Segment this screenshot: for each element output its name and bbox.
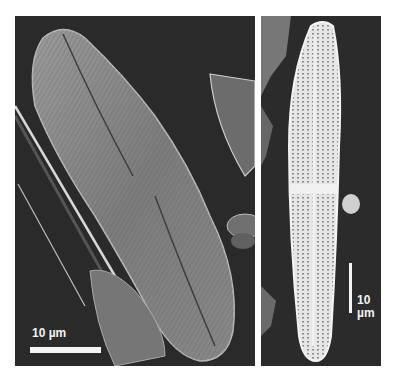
- right-scale-bar: [349, 263, 352, 313]
- right-scale-bar-label-unit: µm: [357, 307, 375, 319]
- left-scale-bar: [30, 347, 101, 353]
- left-micrograph-image: [15, 16, 255, 366]
- left-scale-bar-label: 10 µm: [32, 327, 66, 339]
- left-micrograph-panel: 10 µm: [15, 16, 255, 366]
- right-scale-bar-label-number: 10: [357, 294, 370, 306]
- right-micrograph-panel: 10 µm: [261, 16, 381, 366]
